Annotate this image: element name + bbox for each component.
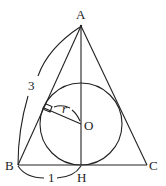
label-measure-1: 1 [48, 170, 55, 185]
label-a: A [76, 7, 86, 22]
measure-arc-ab-top [38, 27, 80, 76]
geometry-diagram: A B C H O r 3 1 [0, 0, 166, 186]
side-ac [81, 26, 147, 165]
label-b: B [5, 158, 14, 173]
label-c: C [149, 158, 158, 173]
point-a-dot [80, 25, 82, 27]
label-o: O [84, 118, 93, 133]
label-h: H [77, 170, 86, 185]
measure-arc-bh-left [18, 166, 44, 178]
label-measure-3: 3 [28, 78, 35, 93]
side-ab [18, 26, 81, 165]
radius-brace-2 [72, 110, 80, 121]
label-r: r [62, 101, 68, 116]
